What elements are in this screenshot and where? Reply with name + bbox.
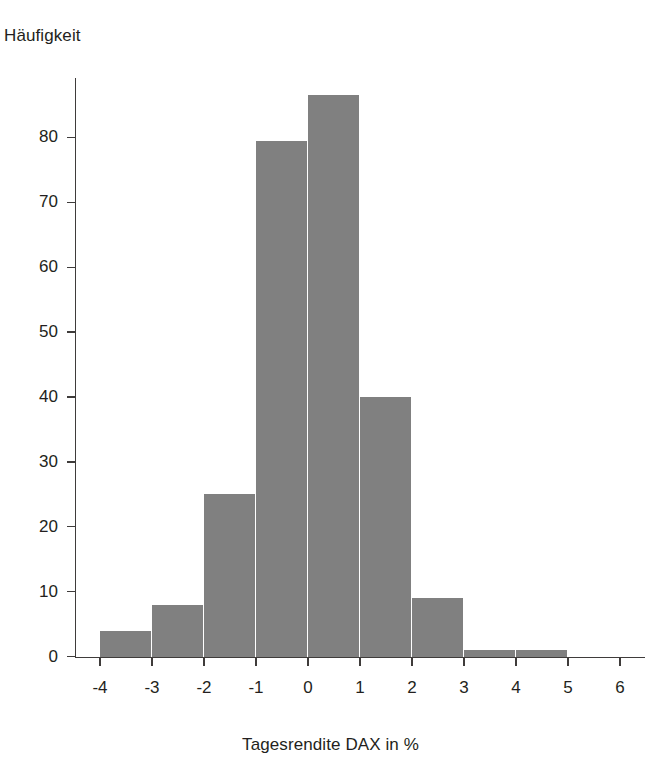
x-tick-label: 2: [392, 678, 432, 698]
x-tick-mark: [411, 657, 412, 666]
x-tick-label: 0: [288, 678, 328, 698]
y-tick-label: 20: [10, 518, 58, 535]
y-tick-label: 30: [10, 453, 58, 470]
x-tick-mark: [151, 657, 152, 666]
x-axis-title: Tagesrendite DAX in %: [0, 735, 661, 755]
histogram-bar: [360, 397, 412, 657]
x-tick-mark: [619, 657, 620, 666]
y-tick-mark: [67, 267, 76, 268]
plot-area: 01020304050607080 -4-3-2-10123456: [0, 0, 661, 700]
x-tick-label: 1: [340, 678, 380, 698]
x-tick-mark: [463, 657, 464, 666]
y-axis-line: [75, 78, 76, 658]
histogram-bar: [464, 650, 516, 656]
x-tick-label: -2: [184, 678, 224, 698]
x-tick-mark: [203, 657, 204, 666]
x-tick-label: 6: [600, 678, 640, 698]
y-tick-mark: [67, 461, 76, 462]
x-tick-label: -1: [236, 678, 276, 698]
y-tick-mark: [67, 331, 76, 332]
y-tick-label: 10: [10, 583, 58, 600]
x-tick-label: 3: [444, 678, 484, 698]
y-tick-label: 50: [10, 323, 58, 340]
x-tick-mark: [567, 657, 568, 666]
y-tick-label: 80: [10, 128, 58, 145]
histogram-bar: [308, 95, 360, 656]
histogram-figure: Häufigkeit 01020304050607080 -4-3-2-1012…: [0, 0, 661, 770]
histogram-bar: [516, 650, 568, 656]
y-tick-mark: [67, 656, 76, 657]
x-tick-mark: [359, 657, 360, 666]
histogram-bar: [152, 605, 204, 657]
histogram-bar: [204, 494, 256, 656]
histogram-bar: [100, 631, 152, 657]
y-tick-label: 70: [10, 193, 58, 210]
y-tick-mark: [67, 526, 76, 527]
x-tick-label: 4: [496, 678, 536, 698]
x-tick-label: 5: [548, 678, 588, 698]
x-tick-mark: [515, 657, 516, 666]
y-tick-label: 60: [10, 258, 58, 275]
x-tick-label: -3: [132, 678, 172, 698]
histogram-bar: [256, 141, 308, 657]
y-tick-mark: [67, 591, 76, 592]
x-tick-mark: [255, 657, 256, 666]
x-tick-label: -4: [80, 678, 120, 698]
y-tick-label: 40: [10, 388, 58, 405]
y-tick-mark: [67, 202, 76, 203]
y-tick-label: 0: [10, 648, 58, 665]
histogram-bar: [412, 598, 464, 656]
x-tick-mark: [307, 657, 308, 666]
y-tick-mark: [67, 137, 76, 138]
x-tick-mark: [99, 657, 100, 666]
y-tick-mark: [67, 396, 76, 397]
